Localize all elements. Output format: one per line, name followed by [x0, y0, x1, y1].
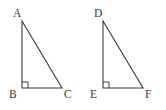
right-angle-marker-e: [103, 82, 109, 88]
right-angle-marker-b: [22, 82, 28, 88]
triangle-def-outline: [103, 21, 143, 88]
vertex-label-c: C: [64, 89, 72, 101]
geometry-figure-canvas: A B C D E F: [0, 0, 166, 110]
triangles-svg: [0, 0, 166, 110]
triangle-abc-outline: [22, 21, 62, 88]
vertex-label-e: E: [90, 89, 97, 101]
vertex-label-a: A: [13, 8, 21, 20]
vertex-label-d: D: [94, 8, 102, 20]
vertex-label-b: B: [9, 89, 17, 101]
vertex-label-f: F: [145, 89, 151, 101]
